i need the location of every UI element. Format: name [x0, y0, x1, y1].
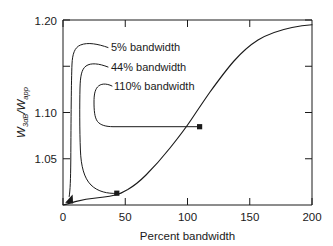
annotation-label-110pct: 110% bandwidth: [114, 80, 195, 92]
y-axis-title-sub1: 3dB: [21, 114, 30, 127]
x-tick-label-100: 100: [178, 211, 197, 223]
y-axis-title-sub2: app: [21, 87, 30, 100]
x-tick-label-200: 200: [302, 211, 321, 223]
x-tick-label-0: 0: [60, 211, 66, 223]
leader-line-44pct: [80, 64, 116, 194]
data-curve: [63, 25, 312, 205]
axis-box-top-right: [63, 20, 312, 205]
annotation-label-5pct: 5% bandwidth: [111, 41, 180, 53]
chart-figure: 1.20 1.10 1.05 0 50 100 150 200 Percent …: [0, 0, 333, 246]
svg-text:W3dB/Wapp: W3dB/Wapp: [15, 87, 30, 138]
chart-canvas: 1.20 1.10 1.05 0 50 100 150 200 Percent …: [0, 0, 333, 246]
y-axis-title: W3dB/Wapp: [15, 87, 30, 138]
y-tick-label-1-10: 1.10: [35, 107, 57, 119]
axis-frame: [63, 20, 312, 205]
y-tick-label-1-05: 1.05: [35, 153, 57, 165]
marker-44pct-square: [114, 191, 119, 196]
axis-lines: [63, 20, 312, 205]
y-tick-label-1-20: 1.20: [35, 15, 57, 27]
marker-110pct-square: [197, 124, 202, 129]
leader-line-5pct: [69, 44, 108, 197]
x-tick-label-150: 150: [240, 211, 259, 223]
annotation-label-44pct: 44% bandwidth: [111, 61, 186, 73]
x-tick-marks: [63, 20, 312, 205]
x-tick-label-50: 50: [119, 211, 132, 223]
x-axis-title: Percent bandwidth: [140, 230, 235, 242]
